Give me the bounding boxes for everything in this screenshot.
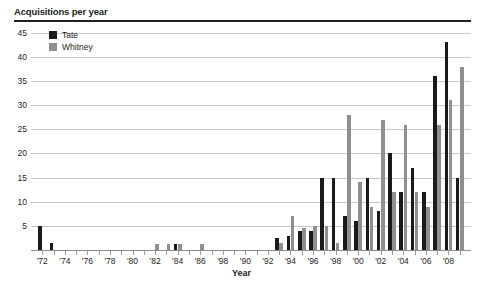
- gridline: 40: [31, 57, 471, 58]
- chart-title: Acquisitions per year: [14, 6, 107, 17]
- y-axis-tick-label: 25: [18, 125, 27, 134]
- x-axis-tick: [144, 251, 145, 255]
- x-axis-tick-label: '02: [375, 257, 386, 266]
- bar-tate: [422, 192, 426, 250]
- bar-whitney: [404, 125, 408, 250]
- x-axis-tick: [234, 251, 235, 255]
- y-axis-tick-label: 5: [22, 222, 27, 231]
- bar-tate: [388, 153, 392, 250]
- bar-whitney: [279, 243, 283, 250]
- x-axis-tick: [87, 251, 88, 255]
- y-axis-tick-label: 10: [18, 197, 27, 206]
- bar-tate: [298, 231, 302, 250]
- bar-whitney: [358, 182, 362, 250]
- x-axis-tick-label: '00: [353, 257, 364, 266]
- bar-tate: [354, 221, 358, 250]
- x-axis-tick-label: '98: [330, 257, 341, 266]
- x-axis-tick: [54, 251, 55, 255]
- bar-whitney: [392, 192, 396, 250]
- x-axis-tick: [381, 251, 382, 255]
- bar-whitney: [370, 207, 374, 250]
- x-axis-tick: [437, 251, 438, 255]
- x-axis-tick-label: '76: [82, 257, 93, 266]
- bar-whitney: [437, 125, 441, 250]
- bar-tate: [411, 168, 415, 250]
- bar-tate: [287, 236, 291, 250]
- bar-whitney: [325, 226, 329, 250]
- bar-whitney: [347, 115, 351, 250]
- x-axis-tick: [426, 251, 427, 255]
- x-axis-tick: [200, 251, 201, 255]
- bar-tate: [445, 42, 449, 250]
- x-axis-tick: [448, 251, 449, 255]
- bar-whitney: [291, 216, 295, 250]
- x-axis-tick: [403, 251, 404, 255]
- x-axis-tick-label: '86: [195, 257, 206, 266]
- x-axis-tick: [121, 251, 122, 255]
- x-axis-tick: [42, 251, 43, 255]
- x-axis-tick-label: '08: [443, 257, 454, 266]
- x-axis-tick: [212, 251, 213, 255]
- x-axis-tick-label: '94: [285, 257, 296, 266]
- x-axis-tick: [347, 251, 348, 255]
- bar-tate: [377, 211, 381, 250]
- x-axis-tick-label: '92: [262, 257, 273, 266]
- legend-label-tate: Tate: [62, 31, 78, 40]
- x-axis-tick: [415, 251, 416, 255]
- bar-tate: [456, 178, 460, 250]
- bar-tate: [320, 178, 324, 250]
- legend-swatch-whitney-icon: [49, 43, 57, 51]
- bar-tate: [366, 178, 370, 250]
- x-axis-tick: [76, 251, 77, 255]
- x-axis-tick: [257, 251, 258, 255]
- bar-tate: [332, 178, 336, 250]
- x-axis-tick: [392, 251, 393, 255]
- legend-label-whitney: Whitney: [62, 43, 93, 52]
- bar-tate: [399, 192, 403, 250]
- title-divider: [14, 20, 471, 22]
- x-axis-tick-label: '72: [37, 257, 48, 266]
- x-axis-tick: [245, 251, 246, 255]
- x-axis-tick-label: '84: [172, 257, 183, 266]
- x-axis-tick: [110, 251, 111, 255]
- bar-tate: [275, 238, 279, 250]
- bar-whitney: [449, 100, 453, 250]
- x-axis-tick: [189, 251, 190, 255]
- x-axis-tick: [313, 251, 314, 255]
- y-axis-tick-label: 30: [18, 101, 27, 110]
- x-axis-tick-label: '74: [59, 257, 70, 266]
- bar-whitney: [381, 120, 385, 250]
- x-axis-tick-label: '06: [420, 257, 431, 266]
- bar-tate: [433, 76, 437, 250]
- gridline: 30: [31, 105, 471, 106]
- x-axis-tick: [279, 251, 280, 255]
- chart-legend: Tate Whitney: [49, 29, 93, 53]
- bar-tate: [343, 216, 347, 250]
- x-axis-tick: [223, 251, 224, 255]
- x-axis-tick: [369, 251, 370, 255]
- x-axis-tick-label: '82: [150, 257, 161, 266]
- legend-item-whitney: Whitney: [49, 41, 93, 53]
- y-axis-tick-label: 45: [18, 29, 27, 38]
- y-axis-tick-label: 35: [18, 77, 27, 86]
- x-axis-tick: [268, 251, 269, 255]
- x-axis-tick: [336, 251, 337, 255]
- x-axis-tick: [166, 251, 167, 255]
- x-axis-tick: [290, 251, 291, 255]
- x-axis-tick-label: '80: [127, 257, 138, 266]
- gridline: 35: [31, 81, 471, 82]
- y-axis-tick-label: 40: [18, 53, 27, 62]
- plot-area: 51015202530354045: [31, 28, 471, 250]
- bar-whitney: [426, 207, 430, 250]
- bar-whitney: [313, 226, 317, 250]
- x-axis-title: Year: [0, 268, 483, 278]
- bar-whitney: [415, 192, 419, 250]
- bar-whitney: [460, 67, 464, 250]
- x-axis-tick: [302, 251, 303, 255]
- bar-tate: [38, 226, 42, 250]
- x-axis-tick-label: '98: [217, 257, 228, 266]
- bar-whitney: [302, 228, 306, 250]
- bar-whitney: [336, 243, 340, 250]
- x-axis-tick: [358, 251, 359, 255]
- x-axis-tick: [155, 251, 156, 255]
